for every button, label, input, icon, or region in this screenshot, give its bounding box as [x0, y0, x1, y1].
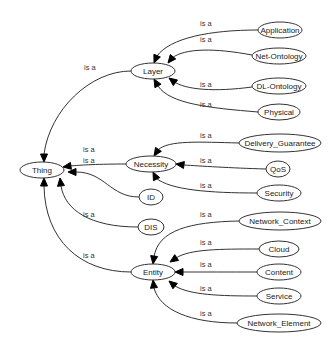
edge-delivery-guarantee-to-necessity: is a — [154, 131, 239, 156]
ontology-graph: is ais ais ais ais ais ais ais ais ais a… — [0, 0, 336, 349]
edge-dis-to-thing: is a — [58, 178, 138, 227]
node-security[interactable]: Security — [257, 185, 301, 201]
node-label: QoS — [270, 165, 286, 174]
edge-line — [172, 50, 252, 58]
edge-label: is a — [200, 80, 213, 89]
edge-line — [76, 172, 139, 197]
node-label: Thing — [32, 166, 52, 175]
node-cloud[interactable]: Cloud — [259, 241, 299, 257]
arrowhead-icon — [41, 178, 48, 186]
node-entity[interactable]: Entity — [131, 264, 175, 280]
arrowhead-icon — [175, 269, 183, 276]
edge-network-element-to-entity: is a — [151, 280, 237, 323]
arrowhead-icon — [154, 79, 161, 88]
edge-label: is a — [200, 210, 213, 219]
node-label: Network_Context — [249, 217, 311, 226]
node-layer[interactable]: Layer — [131, 63, 175, 79]
arrowhead-icon — [169, 281, 177, 289]
edge-line — [173, 81, 252, 90]
node-application[interactable]: Application — [258, 22, 302, 38]
node-physical[interactable]: Physical — [258, 104, 300, 120]
arrowhead-icon — [154, 54, 160, 63]
node-label: Layer — [143, 67, 163, 76]
edge-line — [184, 165, 266, 169]
arrowhead-icon — [63, 162, 71, 169]
node-label: Physical — [264, 108, 294, 117]
edge-line — [70, 164, 126, 166]
edge-cloud-to-entity: is a — [170, 238, 259, 262]
edge-label: is a — [84, 63, 97, 72]
arrowhead-icon — [68, 169, 76, 176]
arrowhead-icon — [176, 162, 184, 169]
edge-line — [176, 249, 259, 258]
arrowhead-icon — [41, 154, 48, 162]
nodes-layer: ThingLayerApplicationNet-OntologyDL-Onto… — [20, 22, 321, 332]
edge-network-context-to-entity: is a — [151, 210, 239, 264]
node-delivery-guarantee[interactable]: Delivery_Guarantee — [239, 134, 321, 152]
node-thing[interactable]: Thing — [20, 162, 64, 178]
edge-service-to-entity: is a — [169, 281, 257, 296]
edge-label: is a — [83, 145, 96, 154]
edge-label: is a — [200, 131, 213, 140]
node-qos[interactable]: QoS — [266, 161, 290, 177]
edge-label: is a — [200, 100, 213, 109]
arrowhead-icon — [58, 178, 65, 186]
node-id[interactable]: ID — [139, 189, 163, 205]
node-service[interactable]: Service — [257, 288, 301, 304]
node-necessity[interactable]: Necessity — [126, 156, 176, 172]
node-net-ontology[interactable]: Net-Ontology — [252, 48, 306, 64]
edge-label: is a — [200, 260, 213, 269]
edge-content-to-entity: is a — [175, 260, 257, 276]
node-label: Entity — [143, 268, 163, 277]
edge-label: is a — [83, 251, 96, 260]
node-dl-ontology[interactable]: DL-Ontology — [252, 78, 306, 94]
edge-label: is a — [200, 181, 213, 190]
edge-line — [158, 142, 239, 150]
node-label: Network_Element — [247, 319, 311, 328]
arrowhead-icon — [170, 255, 179, 262]
edge-qos-to-necessity: is a — [176, 156, 266, 169]
node-label: Cloud — [269, 245, 290, 254]
edge-net-ontology-to-layer: is a — [168, 35, 252, 63]
node-label: Net-Ontology — [255, 52, 302, 61]
node-label: DL-Ontology — [257, 82, 302, 91]
edge-label: is a — [200, 284, 213, 293]
node-label: Security — [265, 189, 294, 198]
edge-label: is a — [83, 210, 96, 219]
node-label: Delivery_Guarantee — [244, 139, 316, 148]
arrowhead-icon — [151, 256, 158, 264]
edge-label: is a — [200, 19, 213, 28]
edge-line — [61, 186, 138, 227]
edge-line — [175, 286, 257, 296]
node-label: DIS — [144, 223, 157, 232]
arrowhead-icon — [169, 78, 178, 86]
edge-line — [44, 71, 131, 154]
edge-entity-to-thing: is a — [41, 178, 132, 272]
edge-line — [154, 288, 237, 323]
arrowhead-icon — [151, 280, 158, 288]
edge-label: is a — [83, 156, 96, 165]
node-label: ID — [147, 193, 155, 202]
edge-dl-ontology-to-layer: is a — [169, 78, 252, 90]
node-content[interactable]: Content — [257, 264, 301, 280]
edge-security-to-necessity: is a — [153, 172, 257, 193]
edge-label: is a — [200, 156, 213, 165]
node-dis[interactable]: DIS — [138, 219, 164, 235]
node-network-context[interactable]: Network_Context — [239, 212, 321, 230]
node-label: Service — [266, 292, 293, 301]
node-network-element[interactable]: Network_Element — [237, 314, 321, 332]
node-label: Necessity — [134, 160, 169, 169]
edge-label: is a — [200, 35, 213, 44]
edge-label: is a — [200, 238, 213, 247]
edge-label: is a — [200, 309, 213, 318]
node-label: Content — [265, 268, 294, 277]
node-label: Application — [260, 26, 299, 35]
